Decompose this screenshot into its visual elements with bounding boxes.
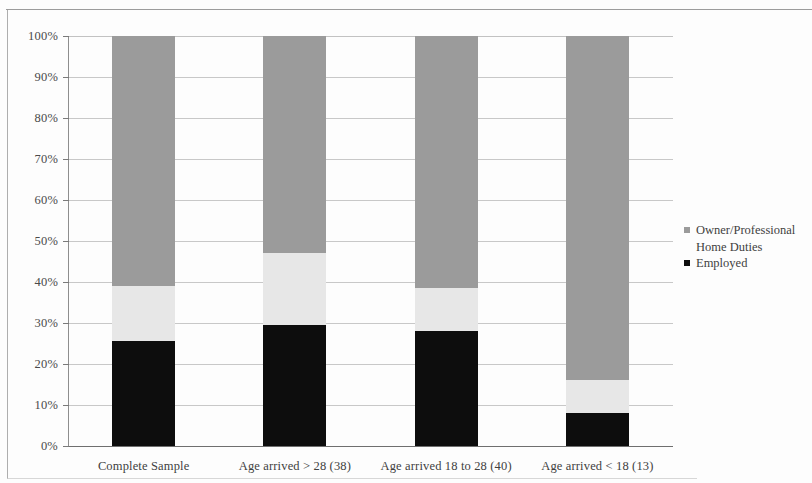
- y-axis-tick: [63, 323, 69, 324]
- x-axis-label: Age arrived > 28 (38): [239, 459, 351, 474]
- bar-segment-home-duties: [263, 253, 326, 325]
- bar-segment-home-duties: [566, 380, 629, 413]
- y-axis-tick: [63, 159, 69, 160]
- bar-segment-home-duties: [415, 288, 478, 331]
- chart-legend: Owner/Professional Home Duties Employed: [684, 222, 810, 272]
- y-axis-tick: [63, 282, 69, 283]
- x-axis-label: Age arrived 18 to 28 (40): [381, 459, 512, 474]
- y-axis-tick: [63, 446, 69, 447]
- page-rule-bottom: [7, 478, 697, 479]
- page-rule-left: [7, 9, 8, 479]
- legend-item-owner-professional: Owner/Professional: [684, 222, 810, 239]
- bar-segment-owner-professional: [263, 36, 326, 253]
- bar-segment-owner-professional: [566, 36, 629, 380]
- page-rule-top: [6, 9, 812, 10]
- legend-label-owner-professional: Owner/Professional: [696, 223, 795, 237]
- y-axis-label: 50%: [34, 234, 58, 249]
- y-axis-tick: [63, 200, 69, 201]
- bar-group: Age arrived 18 to 28 (40): [415, 36, 478, 446]
- y-axis-label: 10%: [34, 398, 58, 413]
- bar-group: Age arrived < 18 (13): [566, 36, 629, 446]
- legend-label-employed: Employed: [696, 256, 747, 270]
- bar-group: Age arrived > 28 (38): [263, 36, 326, 446]
- bar-segment-employed: [263, 325, 326, 446]
- y-axis-tick: [63, 241, 69, 242]
- plot-area: 0%10%20%30%40%50%60%70%80%90%100% Comple…: [68, 36, 673, 446]
- y-axis-tick: [63, 36, 69, 37]
- bar-segment-owner-professional: [415, 36, 478, 288]
- legend-swatch-owner-professional: [684, 227, 690, 233]
- legend-label-home-duties: Home Duties: [696, 240, 762, 254]
- bar-segment-employed: [415, 331, 478, 446]
- y-axis-tick: [63, 118, 69, 119]
- y-axis-label: 90%: [34, 70, 58, 85]
- x-axis-label: Age arrived < 18 (13): [541, 459, 653, 474]
- y-axis-tick: [63, 364, 69, 365]
- y-axis-label: 40%: [34, 275, 58, 290]
- y-axis-label: 70%: [34, 152, 58, 167]
- y-axis-label: 100%: [28, 29, 58, 44]
- y-axis-label: 80%: [34, 111, 58, 126]
- y-axis-label: 30%: [34, 316, 58, 331]
- legend-item-home-duties: Home Duties: [684, 239, 810, 256]
- y-axis-tick: [63, 77, 69, 78]
- gridline-0%: [68, 446, 673, 447]
- chart-figure: 0%10%20%30%40%50%60%70%80%90%100% Comple…: [0, 0, 812, 483]
- bar-segment-employed: [112, 341, 175, 446]
- y-axis-tick: [63, 405, 69, 406]
- bar-segment-employed: [566, 413, 629, 446]
- bar-group: Complete Sample: [112, 36, 175, 446]
- x-axis-label: Complete Sample: [98, 459, 189, 474]
- bar-segment-owner-professional: [112, 36, 175, 286]
- y-axis-label: 20%: [34, 357, 58, 372]
- y-axis-label: 0%: [41, 439, 58, 454]
- legend-swatch-employed: [684, 260, 690, 266]
- y-axis-label: 60%: [34, 193, 58, 208]
- legend-item-employed: Employed: [684, 255, 810, 272]
- bar-segment-home-duties: [112, 286, 175, 341]
